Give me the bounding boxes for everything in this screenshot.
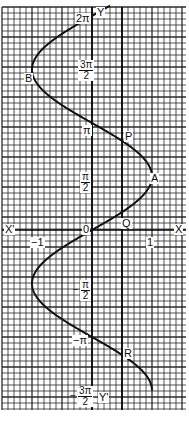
y-tick-pi-over-2: π 2 xyxy=(80,172,91,193)
x-neg-axis-label: X' xyxy=(4,224,15,235)
point-p-label: P xyxy=(124,131,133,142)
y-tick-minus-pi-over-2: − π 2 xyxy=(80,280,91,301)
y-neg-axis-label: Y' xyxy=(98,392,109,403)
y-tick-minus-3pi-over-2: − 3π 2 xyxy=(77,386,93,407)
sine-graph xyxy=(0,0,189,421)
point-q-label: Q xyxy=(121,218,132,229)
y-tick-2pi: 2π xyxy=(75,13,91,24)
y-tick-minus-pi: −π xyxy=(72,335,88,346)
x-axis-label: X xyxy=(174,224,183,235)
x-tick-minus-1: −1 xyxy=(30,237,45,248)
y-tick-3pi-over-2: 3π 2 xyxy=(78,60,94,81)
point-r-label: R xyxy=(123,348,133,359)
x-tick-1: 1 xyxy=(146,237,154,248)
y-tick-pi: π xyxy=(82,125,92,136)
point-b-label: B xyxy=(24,73,33,84)
origin-label: 0 xyxy=(82,224,90,235)
y-axis-label: Y xyxy=(96,7,105,18)
point-a-label: A xyxy=(150,173,159,184)
